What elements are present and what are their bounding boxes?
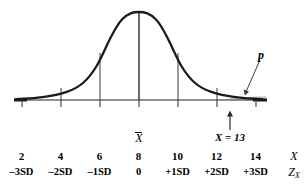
- z-axis-name-label: ZX: [275, 166, 306, 182]
- z-tick-label-1: –2SD: [41, 166, 80, 178]
- z-tick-label-4: +1SD: [158, 166, 197, 178]
- x-tick-label-1: 4: [41, 150, 80, 162]
- z-tick-label-2: –1SD: [80, 166, 119, 178]
- x-scale-label-row: 2 4 6 8 10 12 14 X: [0, 150, 306, 162]
- z-tick-label-0: –3SD: [2, 166, 41, 178]
- z-axis-name-subscript: X: [295, 171, 300, 180]
- observation-value-label: X = 13: [205, 131, 255, 143]
- z-tick-label-5: +2SD: [197, 166, 236, 178]
- x-tick-label-5: 12: [197, 150, 236, 162]
- observation-arrow-head: [227, 111, 233, 117]
- x-axis-name-label: X: [275, 150, 306, 162]
- x-tick-label-4: 10: [158, 150, 197, 162]
- x-tick-label-3: 8: [119, 150, 158, 162]
- axis-tick-marks: [22, 100, 256, 107]
- normal-distribution-figure: X X = 13 p 2 4 6 8 10 12 14 X –3SD –2SD …: [0, 0, 306, 186]
- z-tick-label-3: 0: [119, 166, 158, 178]
- p-leader-line: [245, 60, 260, 94]
- xbar-overbar: X: [135, 131, 142, 144]
- x-tick-label-6: 14: [236, 150, 275, 162]
- x-tick-label-2: 6: [80, 150, 119, 162]
- mean-xbar-label: X: [130, 131, 148, 144]
- probability-p-label: p: [258, 49, 264, 61]
- z-scale-label-row: –3SD –2SD –1SD 0 +1SD +2SD +3SD ZX: [0, 166, 306, 182]
- z-tick-label-6: +3SD: [236, 166, 275, 178]
- x-tick-label-0: 2: [2, 150, 41, 162]
